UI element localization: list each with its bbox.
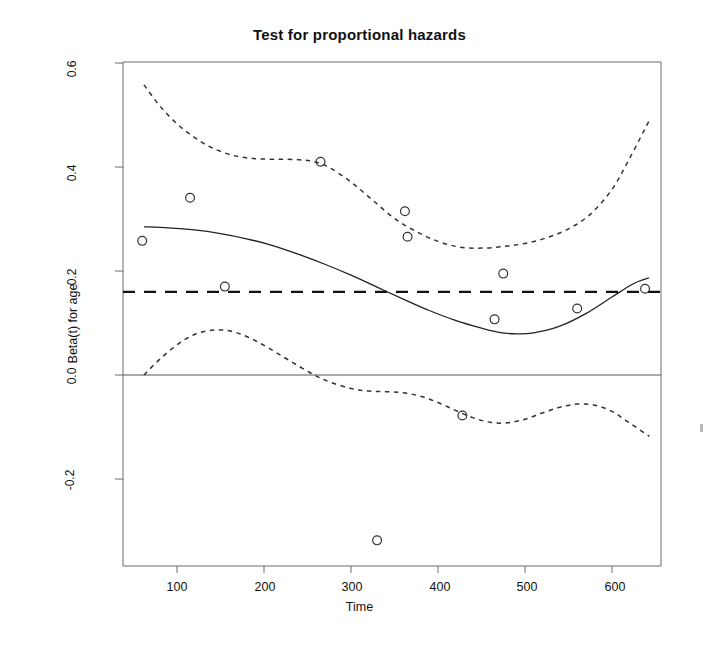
axis-box	[123, 62, 661, 566]
scatter-point-1	[186, 193, 195, 202]
reference-lines-group	[123, 292, 661, 375]
page-speck	[700, 424, 703, 432]
upper-confidence-band	[144, 85, 649, 248]
scatter-points-group	[138, 157, 650, 544]
scatter-point-0	[138, 236, 147, 245]
scatter-point-6	[403, 232, 412, 241]
scatter-point-4	[373, 536, 382, 545]
scatter-point-3	[316, 157, 325, 166]
y-axis-ticks	[115, 63, 123, 479]
chart-canvas: Test for proportional hazards Beta(t) fo…	[0, 0, 719, 647]
scatter-point-10	[573, 304, 582, 313]
scatter-point-9	[499, 269, 508, 278]
plot-svg	[0, 0, 719, 647]
lower-confidence-band	[144, 330, 649, 436]
x-axis-ticks	[177, 566, 612, 573]
smoothed-beta	[144, 227, 649, 334]
scatter-point-11	[641, 284, 650, 293]
scatter-point-2	[220, 282, 229, 291]
scatter-point-8	[490, 315, 499, 324]
fitted-curve-group	[144, 227, 649, 334]
confidence-bands-group	[144, 85, 649, 437]
scatter-point-5	[401, 207, 410, 216]
